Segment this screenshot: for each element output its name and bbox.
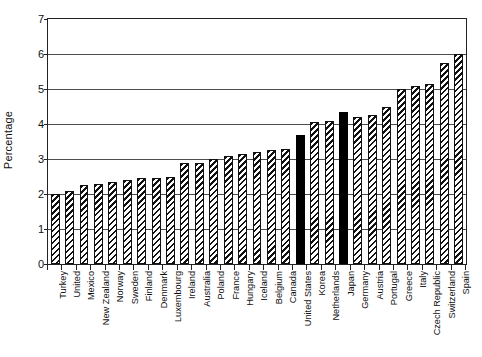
- x-axis-tick-label: Canada: [288, 271, 298, 303]
- x-axis-tick-label: Hungary: [245, 271, 255, 306]
- bar: [94, 184, 103, 265]
- bar: [224, 156, 233, 265]
- x-axis-tick-label: Netherlands: [331, 271, 341, 321]
- x-axis-tick-mark: [350, 265, 351, 270]
- x-axis-tick-mark: [162, 265, 163, 270]
- x-axis-tick-label: France: [231, 271, 241, 300]
- x-axis-tick-mark: [292, 265, 293, 270]
- bar: [195, 163, 204, 265]
- x-axis-tick-label: United States: [303, 271, 313, 326]
- x-axis-tick-label: Korea: [317, 271, 327, 296]
- x-axis-tick-label: Poland: [216, 271, 226, 300]
- bar: [123, 180, 132, 264]
- x-axis-tick-label: Mexico: [86, 271, 96, 300]
- bar: [353, 117, 362, 264]
- x-axis-tick-label: Japan: [346, 271, 356, 296]
- bar: [209, 159, 218, 264]
- bar: [425, 84, 434, 264]
- x-axis-tick-label: Finland: [144, 271, 154, 301]
- bar: [368, 115, 377, 264]
- bar: [253, 152, 262, 264]
- x-axis-tick-label: United: [72, 271, 82, 298]
- bar: [51, 194, 60, 264]
- x-axis-tick-mark: [393, 265, 394, 270]
- bar: [137, 178, 146, 264]
- bar-series: [48, 19, 466, 264]
- x-axis-tick-mark: [119, 265, 120, 270]
- x-axis-tick-label: Belgium: [274, 271, 284, 304]
- bar: [411, 86, 420, 265]
- bar: [310, 122, 319, 264]
- x-axis-tick-label: Switzerland: [447, 271, 457, 319]
- x-axis-tick-label: New Zealand: [101, 271, 111, 325]
- x-axis-tick-mark: [206, 265, 207, 270]
- bar: [339, 112, 348, 264]
- bar: [267, 150, 276, 264]
- x-axis-tick-mark: [306, 265, 307, 270]
- x-axis-tick-label: Norway: [115, 271, 125, 302]
- bar: [65, 191, 74, 265]
- x-axis-tick-label: Turkey: [58, 271, 68, 299]
- x-axis-tick-mark: [422, 265, 423, 270]
- x-axis-tick-mark: [234, 265, 235, 270]
- x-axis-tick-mark: [90, 265, 91, 270]
- x-axis-tick-label: Portugal: [389, 271, 399, 305]
- x-axis-tick-label: Australia: [202, 271, 212, 307]
- x-axis-tick-label: Germany: [360, 271, 370, 309]
- x-axis-tick-mark: [451, 265, 452, 270]
- x-axis-tick-mark: [364, 265, 365, 270]
- x-axis-tick-mark: [249, 265, 250, 270]
- x-axis-tick-label: Italy: [418, 271, 428, 288]
- bar: [180, 163, 189, 265]
- x-axis-tick-mark: [278, 265, 279, 270]
- chart-figure: Percentage 01234567 TurkeyUnitedMexicoNe…: [0, 0, 482, 357]
- bar: [152, 178, 161, 264]
- x-axis-tick-mark: [465, 265, 466, 270]
- x-axis-tick-mark: [105, 265, 106, 270]
- x-axis-tick-label: Austria: [375, 271, 385, 300]
- y-axis-title: Percentage: [2, 0, 22, 70]
- bar: [296, 135, 305, 265]
- x-axis-tick-label: Ireland: [187, 271, 197, 299]
- y-axis-title-text: Percentage: [2, 70, 14, 210]
- bar: [382, 107, 391, 265]
- x-axis-tick-mark: [76, 265, 77, 270]
- x-axis-tick-mark: [133, 265, 134, 270]
- x-axis-tick-mark: [61, 265, 62, 270]
- x-axis-tick-label: Denmark: [159, 271, 169, 308]
- x-axis-tick-label: Greece: [404, 271, 414, 301]
- bar: [454, 54, 463, 264]
- x-axis-tick-mark: [263, 265, 264, 270]
- x-axis-tick-mark: [335, 265, 336, 270]
- x-axis-tick-label: Spain: [461, 271, 471, 295]
- bar: [80, 185, 89, 264]
- x-axis-tick-label: Luxembourg: [173, 271, 183, 322]
- x-axis-tick-mark: [47, 265, 48, 270]
- x-axis-tick-label: Iceland: [259, 271, 269, 301]
- x-axis-tick-mark: [148, 265, 149, 270]
- bar: [440, 63, 449, 264]
- x-axis-tick-mark: [407, 265, 408, 270]
- bar: [397, 89, 406, 264]
- x-axis-tick-mark: [436, 265, 437, 270]
- x-axis-tick-label: Czech Republic: [432, 271, 442, 335]
- x-axis-tick-mark: [191, 265, 192, 270]
- bar: [281, 149, 290, 265]
- x-axis-tick-mark: [379, 265, 380, 270]
- x-axis-tick-mark: [177, 265, 178, 270]
- x-axis-tick-label: Sweden: [130, 271, 140, 304]
- plot-area: 01234567: [47, 18, 467, 265]
- x-axis-labels: TurkeyUnitedMexicoNew ZealandNorwaySwede…: [47, 271, 467, 357]
- x-axis-tick-mark: [321, 265, 322, 270]
- bar: [108, 182, 117, 264]
- bar: [238, 154, 247, 264]
- bar: [325, 121, 334, 265]
- x-axis-tick-mark: [220, 265, 221, 270]
- bar: [166, 177, 175, 265]
